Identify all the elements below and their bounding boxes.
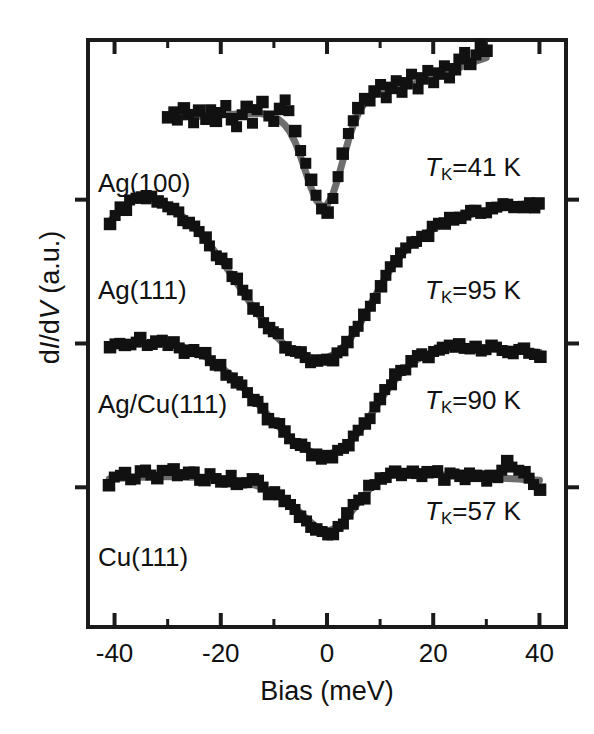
data-point — [459, 47, 470, 58]
data-point — [348, 115, 359, 126]
data-point — [257, 403, 268, 414]
data-point — [231, 273, 244, 286]
y-axis-title: dI/dV (a.u.) — [35, 148, 66, 448]
data-point — [534, 483, 547, 496]
x-tick-label: 20 — [398, 638, 468, 669]
kondo-T-symbol: T — [425, 496, 441, 526]
data-point — [338, 519, 349, 530]
kondo-T-symbol: T — [425, 275, 441, 305]
data-point — [375, 280, 388, 293]
data-point — [422, 65, 433, 76]
x-tick-label: 0 — [292, 638, 362, 669]
data-point — [353, 321, 364, 332]
data-point — [205, 104, 216, 115]
data-point — [188, 117, 199, 128]
kondo-K-subscript: K — [441, 288, 452, 307]
kondo-K-subscript: K — [441, 165, 452, 184]
data-point — [333, 171, 344, 182]
data-point — [391, 75, 402, 86]
kondo-temperature-label-3: TK=90 K — [425, 385, 521, 418]
data-point — [343, 128, 354, 139]
data-point — [532, 197, 545, 210]
data-point — [172, 115, 183, 126]
data-point — [253, 306, 264, 317]
kondo-T-symbol: T — [425, 385, 441, 415]
data-point — [242, 289, 253, 300]
kondo-value: =57 K — [452, 496, 521, 526]
curve-label-ag-111: Ag(111) — [98, 275, 187, 306]
kondo-value: =90 K — [452, 385, 521, 415]
data-point — [534, 351, 547, 364]
data-point — [370, 293, 381, 304]
x-tick-label: -40 — [80, 638, 150, 669]
data-point — [200, 114, 211, 125]
data-point — [321, 206, 334, 219]
data-point — [375, 79, 386, 90]
data-point — [204, 240, 215, 251]
data-point — [247, 118, 258, 129]
data-point — [273, 328, 284, 339]
data-point — [283, 105, 294, 116]
data-point — [240, 101, 253, 114]
data-point — [480, 44, 493, 57]
data-point — [470, 49, 481, 60]
data-point — [295, 145, 306, 156]
data-point — [311, 190, 322, 201]
data-point — [222, 258, 233, 269]
data-point — [449, 63, 462, 76]
kondo-K-subscript: K — [441, 509, 452, 528]
data-point — [280, 94, 291, 105]
curve-label-ag-100: Ag(100) — [98, 168, 191, 199]
data-point — [231, 121, 242, 132]
kondo-value: =95 K — [452, 275, 521, 305]
data-point — [220, 100, 231, 111]
kondo-temperature-label-2: TK=95 K — [425, 275, 521, 308]
kondo-T-symbol: T — [425, 152, 441, 182]
kondo-temperature-label-4: TK=57 K — [425, 496, 521, 529]
data-point — [327, 193, 338, 204]
kondo-temperature-label-1: TK=41 K — [425, 152, 521, 185]
data-point — [336, 147, 349, 160]
data-point — [365, 413, 376, 424]
data-point — [214, 359, 227, 372]
data-point — [358, 492, 371, 505]
y-axis-title-text: dI/dV (a.u.) — [35, 231, 65, 365]
data-point — [300, 158, 311, 169]
data-point — [289, 125, 302, 138]
x-tick-label: 40 — [504, 638, 574, 669]
curve-label-cu-111: Cu(111) — [98, 542, 188, 573]
data-point — [413, 83, 424, 94]
data-point — [386, 379, 397, 390]
data-point — [268, 116, 279, 127]
spectroscopy-plot — [0, 0, 594, 734]
kondo-K-subscript: K — [441, 398, 452, 417]
data-point — [256, 96, 269, 109]
data-point — [341, 336, 354, 349]
curve-label-ag-cu-111: Ag/Cu(111) — [98, 389, 227, 420]
x-tick-label: -20 — [186, 638, 256, 669]
data-point — [305, 174, 318, 187]
kondo-value: =41 K — [452, 152, 521, 182]
x-axis-title: Bias (meV) — [88, 676, 566, 707]
data-point — [439, 60, 450, 71]
data-point — [406, 69, 417, 80]
figure-panel: dI/dV (a.u.) Bias (meV) -40-2002040 Ag(1… — [0, 0, 594, 734]
